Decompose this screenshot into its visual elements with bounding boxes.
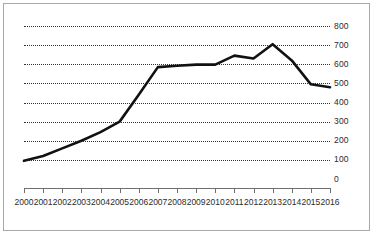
x-axis-label-2012: 2012	[244, 198, 263, 207]
y-axis-label-800: 800	[334, 22, 349, 31]
series-1-path	[24, 44, 330, 161]
line-series	[24, 26, 330, 179]
x-axis-label-2006: 2006	[129, 198, 148, 207]
y-axis-label-600: 600	[334, 60, 349, 69]
y-axis-label-700: 700	[334, 41, 349, 50]
x-tick-2004	[101, 188, 102, 193]
x-tick-2010	[215, 188, 216, 193]
x-axis-label-2007: 2007	[148, 198, 167, 207]
x-axis-label-2000: 2000	[15, 198, 34, 207]
y-axis-label-100: 100	[334, 155, 349, 164]
x-axis-label-2004: 2004	[91, 198, 110, 207]
y-axis-label-400: 400	[334, 98, 349, 107]
x-tick-2014	[292, 188, 293, 193]
x-tick-2015	[311, 188, 312, 193]
x-axis-label-2014: 2014	[282, 198, 301, 207]
plot-area	[24, 26, 330, 179]
x-axis-label-2009: 2009	[187, 198, 206, 207]
x-axis-label-2010: 2010	[206, 198, 225, 207]
x-tick-2012	[254, 188, 255, 193]
x-tick-2006	[139, 188, 140, 193]
x-axis-label-2015: 2015	[301, 198, 320, 207]
x-axis-label-2016: 2016	[321, 198, 340, 207]
x-tick-2008	[177, 188, 178, 193]
chart-figure: 0100200300400500600700800 20002001200220…	[0, 0, 373, 234]
y-axis-label-300: 300	[334, 117, 349, 126]
x-axis-labels: 2000200120022003200420052006200720082009…	[0, 198, 373, 212]
x-tick-2000	[24, 188, 25, 193]
x-tick-2013	[273, 188, 274, 193]
x-axis-label-2001: 2001	[34, 198, 53, 207]
x-tick-2007	[158, 188, 159, 193]
x-axis-label-2013: 2013	[263, 198, 282, 207]
y-axis-label-0: 0	[334, 175, 339, 184]
x-axis-label-2008: 2008	[168, 198, 187, 207]
y-axis-label-500: 500	[334, 79, 349, 88]
x-axis-label-2003: 2003	[72, 198, 91, 207]
x-tick-2003	[81, 188, 82, 193]
x-tick-2005	[120, 188, 121, 193]
x-tick-2009	[196, 188, 197, 193]
x-tick-2016	[330, 188, 331, 193]
x-tick-2011	[234, 188, 235, 193]
x-tick-2001	[43, 188, 44, 193]
x-axis-label-2005: 2005	[110, 198, 129, 207]
x-tick-2002	[62, 188, 63, 193]
x-axis-label-2002: 2002	[53, 198, 72, 207]
y-axis-label-200: 200	[334, 136, 349, 145]
x-axis-label-2011: 2011	[225, 198, 243, 207]
